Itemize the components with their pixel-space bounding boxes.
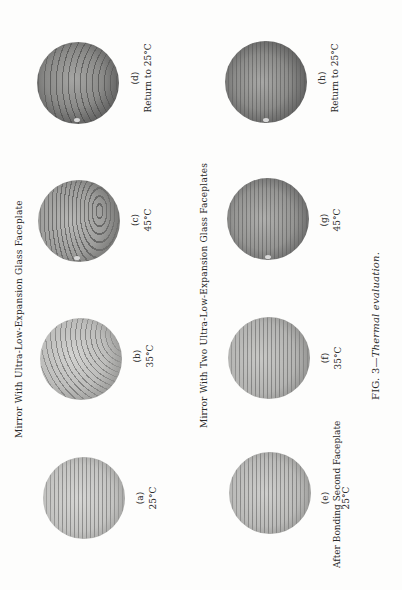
figure-page: Mirror With Ultra-Low-Expansion Glass Fa… <box>0 0 402 590</box>
caption-title: Thermal evaluation. <box>370 252 381 357</box>
edge-mark <box>263 118 269 122</box>
panel-id: (c) <box>129 190 142 250</box>
interferogram-a <box>43 457 125 539</box>
fringe-pattern <box>37 42 119 124</box>
interferogram-f <box>228 317 310 399</box>
interferogram-b <box>40 318 122 400</box>
edge-mark <box>74 118 80 122</box>
fringe-pattern <box>228 317 310 399</box>
interferogram-c <box>38 180 120 262</box>
panel-label-d: (d) Return to 25°C <box>129 38 155 118</box>
panel-label-b: (b) 35°C <box>131 326 157 386</box>
panel-temperature: 35°C <box>332 328 345 388</box>
panel-label-f: (f) 35°C <box>319 328 345 388</box>
interferogram-g <box>227 178 309 260</box>
panel-temperature: 45°C <box>142 190 155 250</box>
fringe-pattern <box>40 318 122 400</box>
group-title-two-faceplates: Mirror With Two Ultra-Low-Expansion Glas… <box>199 163 210 428</box>
panel-label-e: (e) After Bonding Second Faceplate 25°C <box>319 428 351 568</box>
panel-condition: Return to 25°C <box>329 38 342 118</box>
fringe-pattern <box>225 41 307 123</box>
panel-temperature: 45°C <box>331 190 344 250</box>
panel-label-a: (a) 25°C <box>134 468 160 528</box>
panel-id: (f) <box>319 328 332 388</box>
panel-id: (d) <box>129 38 142 118</box>
panel-temperature: 35°C <box>144 326 157 386</box>
edge-mark <box>265 255 271 259</box>
figure-caption: FIG. 3—Thermal evaluation. <box>370 252 381 400</box>
fringe-pattern <box>43 457 125 539</box>
interferogram-h <box>225 41 307 123</box>
panel-id: (a) <box>134 468 147 528</box>
panel-label-h: (h) Return to 25°C <box>316 38 342 118</box>
panel-label-g: (g) 45°C <box>318 190 344 250</box>
panel-temperature: 25°C <box>147 468 160 528</box>
interferogram-e <box>229 452 311 534</box>
group-title-single-faceplate: Mirror With Ultra-Low-Expansion Glass Fa… <box>14 200 25 438</box>
panel-id: (b) <box>131 326 144 386</box>
edge-mark <box>74 256 80 260</box>
panel-temperature: 25°C <box>342 428 351 568</box>
panel-condition: Return to 25°C <box>142 38 155 118</box>
caption-prefix: FIG. 3— <box>370 357 381 400</box>
panel-label-c: (c) 45°C <box>129 190 155 250</box>
panel-id: (g) <box>318 190 331 250</box>
fringe-pattern <box>229 452 311 534</box>
interferogram-d <box>37 42 119 124</box>
panel-id: (h) <box>316 38 329 118</box>
panel-id: (e) <box>319 428 332 568</box>
fringe-pattern <box>227 178 309 260</box>
fringe-pattern <box>38 180 120 262</box>
